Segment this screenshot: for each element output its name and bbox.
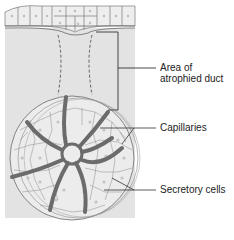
label-capillaries: Capillaries bbox=[160, 122, 207, 133]
label-atrophied-duct-line1: Area of bbox=[160, 62, 223, 73]
label-atrophied-duct: Area of atrophied duct bbox=[160, 62, 223, 84]
label-atrophied-duct-line2: atrophied duct bbox=[160, 73, 223, 84]
label-secretory-cells: Secretory cells bbox=[160, 184, 226, 195]
